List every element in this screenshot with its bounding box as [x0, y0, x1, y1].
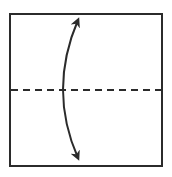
fold-diagram: [0, 0, 172, 177]
